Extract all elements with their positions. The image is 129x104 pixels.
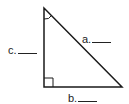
label-b-text: b. [68, 92, 77, 104]
answer-blank-a[interactable] [92, 33, 111, 43]
answer-blank-b[interactable] [78, 92, 97, 102]
label-c: c. [8, 44, 37, 56]
right-angle-marker [44, 78, 53, 87]
right-triangle [44, 8, 122, 87]
label-c-text: c. [8, 44, 17, 56]
label-b: b. [68, 92, 97, 104]
label-a: a. [82, 33, 111, 45]
answer-blank-c[interactable] [18, 44, 37, 54]
label-a-text: a. [82, 33, 91, 45]
